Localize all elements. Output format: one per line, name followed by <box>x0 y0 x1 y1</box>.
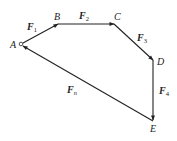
force-label-f4: F4 <box>158 85 170 97</box>
vector-f3 <box>114 24 153 60</box>
point-label-b: B <box>54 11 60 22</box>
point-a-marker <box>19 42 23 46</box>
point-label-d: D <box>156 56 165 67</box>
force-label-fn: Fn <box>66 84 77 96</box>
point-label-a: A <box>9 39 17 50</box>
point-label-c: C <box>114 11 121 22</box>
point-label-e: E <box>149 123 156 134</box>
force-label-f2: F2 <box>78 10 89 22</box>
force-label-f1: F1 <box>26 21 37 33</box>
force-label-f3: F3 <box>136 32 147 44</box>
vector-fn <box>23 46 153 121</box>
force-polygon-diagram: A B C D E F1 F2 F3 F4 Fn <box>0 0 177 141</box>
